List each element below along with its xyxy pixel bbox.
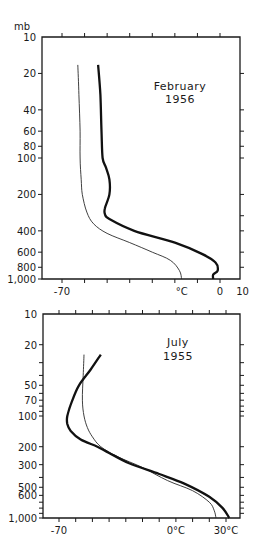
x-tick-label: -70 — [54, 286, 70, 297]
data-series — [78, 65, 218, 279]
y-tick-label: 300 — [18, 460, 37, 471]
y-tick-label: 600 — [18, 490, 37, 501]
y-tick-label: 80 — [23, 141, 36, 152]
x-tick-label: -70 — [51, 525, 67, 536]
figure: mb February1956 102040608010020040060080… — [0, 0, 264, 557]
chart-title-line: February — [154, 80, 207, 93]
y-tick-label: 20 — [23, 68, 36, 79]
plot-frame — [42, 37, 240, 279]
chart-february-1956: mb February1956 102040608010020040060080… — [7, 21, 249, 297]
temperature-profile-thin — [82, 355, 216, 518]
y-tick-label: 10 — [23, 32, 36, 43]
y-tick-label: 400 — [17, 226, 36, 237]
data-series — [67, 355, 229, 518]
chart-title: February1956 — [154, 80, 207, 106]
y-tick-label: 200 — [18, 442, 37, 453]
y-tick-label: 1,000 — [8, 513, 37, 524]
chart-july-1955: July1955 102050701002003005006001,000-70… — [8, 309, 244, 536]
x-tick-label: 10 — [236, 286, 249, 297]
x-tick-label: 0 — [217, 286, 223, 297]
y-tick-label: 100 — [17, 153, 36, 164]
x-tick-label: 30°C — [214, 525, 239, 536]
y-tick-label: 70 — [24, 395, 37, 406]
temperature-profile-thick — [98, 65, 218, 279]
y-tick-label: 800 — [17, 262, 36, 273]
y-tick-label: 10 — [24, 309, 37, 320]
chart-title-line: July — [166, 336, 189, 349]
y-tick-label: 40 — [23, 105, 36, 116]
temperature-profile-thick — [67, 355, 229, 518]
y-tick-label: 20 — [24, 340, 37, 351]
chart-title-line: 1956 — [165, 93, 195, 106]
chart-title-line: 1955 — [163, 350, 193, 363]
y-tick-label: 600 — [17, 247, 36, 258]
y-tick-label: 50 — [24, 380, 37, 391]
y-tick-label: 60 — [23, 126, 36, 137]
plot-frame — [43, 314, 240, 518]
x-tick-label: 0°C — [167, 525, 185, 536]
x-tick-label: °C — [176, 286, 188, 297]
y-axis-unit-label: mb — [14, 21, 30, 32]
axes-frame: 10204060801002004006008001,000-70°C010 — [7, 32, 249, 297]
chart-title: July1955 — [163, 336, 193, 363]
y-tick-label: 1,000 — [7, 274, 36, 285]
y-tick-label: 200 — [17, 189, 36, 200]
y-tick-label: 100 — [18, 411, 37, 422]
